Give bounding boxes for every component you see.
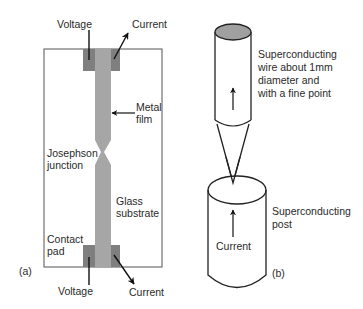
label-panel-b: (b): [272, 267, 285, 279]
label-metal-film-2: film: [136, 113, 153, 125]
label-contact-2: pad: [47, 245, 65, 257]
label-panel-a: (a): [19, 265, 32, 277]
wire-top: [215, 24, 251, 40]
label-wire-1: Superconducting: [258, 48, 337, 60]
label-josephson-1: Josephson: [47, 147, 98, 159]
label-glass-2: substrate: [116, 207, 159, 219]
label-post-current: Current: [216, 240, 251, 252]
label-josephson-2: junction: [46, 159, 83, 171]
label-current-bottom: Current: [129, 286, 164, 298]
label-wire-4: with a fine point: [257, 87, 331, 99]
label-post-1: Superconducting: [272, 205, 351, 217]
label-wire-2: wire about 1mm: [257, 61, 333, 73]
wire-bottom-edge: [215, 120, 251, 126]
wire-tip: [217, 124, 249, 183]
post-top: [208, 176, 266, 204]
label-glass-1: Glass: [116, 195, 143, 207]
label-voltage-bottom: Voltage: [58, 285, 93, 297]
panel-b-point-contact: Superconducting wire about 1mm diameter …: [208, 24, 351, 288]
label-wire-3: diameter and: [258, 74, 319, 86]
label-metal-film-1: Metal: [136, 101, 162, 113]
label-current-top: Current: [132, 18, 167, 30]
label-voltage-top: Voltage: [57, 18, 92, 30]
panel-a-josephson-film: Voltage Current Metal film Josephson jun…: [19, 18, 167, 298]
label-contact-1: Contact: [47, 233, 83, 245]
label-post-2: post: [272, 218, 292, 230]
